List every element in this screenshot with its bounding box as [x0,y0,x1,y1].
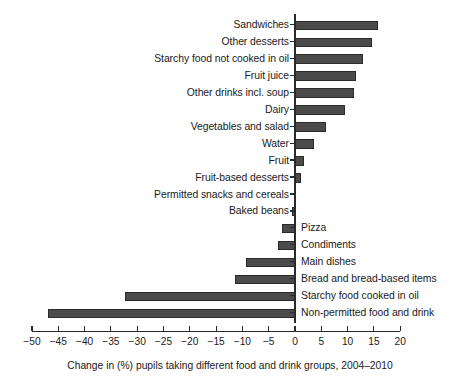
x-tick [163,326,164,331]
x-tick-label: −10 [234,336,251,347]
bar-row: Bread and bread-based items [0,270,460,289]
x-tick-label: 20 [395,336,406,347]
y-tick [290,278,294,279]
x-tick [58,326,59,331]
y-tick [290,193,294,194]
y-tick [290,143,294,144]
category-label: Main dishes [301,253,460,272]
category-label: Fruit [0,152,289,171]
y-tick [290,295,294,296]
x-tick [110,326,111,331]
x-tick [216,326,217,331]
bar-row: Baked beans [0,202,460,221]
bar [295,88,354,97]
y-tick [290,176,294,177]
bar [295,21,378,30]
x-tick-label: −20 [181,336,198,347]
bar-row: Pizza [0,219,460,238]
x-tick [137,326,138,331]
bar-row: Vegetables and salad [0,118,460,137]
category-label: Starchy food cooked in oil [301,287,460,306]
y-tick [290,58,294,59]
bar [295,71,356,80]
bar [295,54,363,63]
x-tick [373,326,374,331]
bar-row: Fruit [0,152,460,171]
x-tick [242,326,243,331]
x-tick-label: −15 [207,336,224,347]
bar [246,258,295,267]
bar-row: Other drinks incl. soup [0,84,460,103]
y-tick [290,109,294,110]
y-tick [290,312,294,313]
bar [235,275,295,284]
x-tick-label: −25 [155,336,172,347]
x-tick [400,326,401,331]
bar-row: Fruit-based desserts [0,169,460,188]
category-label: Permitted snacks and cereals [0,186,289,205]
y-axis-line [294,14,295,323]
y-tick [290,92,294,93]
category-label: Dairy [0,101,289,120]
bar-row: Dairy [0,101,460,120]
bar-row: Permitted snacks and cereals [0,186,460,205]
category-label: Non-permitted food and drink [301,304,460,323]
bar-row: Starchy food not cooked in oil [0,50,460,69]
x-tick [268,326,269,331]
bar-row: Sandwiches [0,16,460,35]
bar [282,224,295,233]
category-label: Baked beans [0,202,289,221]
bar [295,156,304,165]
category-label: Other drinks incl. soup [0,84,289,103]
x-tick-label: 10 [342,336,353,347]
bar-row: Main dishes [0,253,460,272]
x-tick-label: −50 [23,336,40,347]
category-label: Other desserts [0,33,289,52]
x-tick-label: −5 [263,336,275,347]
y-tick [290,75,294,76]
x-tick [347,326,348,331]
bar-row: Non-permitted food and drink [0,304,460,323]
category-label: Vegetables and salad [0,118,289,137]
category-label: Water [0,135,289,154]
y-tick [290,244,294,245]
category-label: Fruit juice [0,67,289,86]
x-tick-label: 15 [368,336,379,347]
bar [295,139,314,148]
bar [295,38,372,47]
category-label: Bread and bread-based items [301,270,460,289]
bar [278,241,295,250]
y-tick [290,261,294,262]
bar-chart: SandwichesOther dessertsStarchy food not… [0,0,460,387]
plot-area: SandwichesOther dessertsStarchy food not… [0,0,460,340]
y-tick [290,41,294,42]
bar-row: Starchy food cooked in oil [0,287,460,306]
bar [125,292,295,301]
bar [295,173,301,182]
x-tick-label: −40 [76,336,93,347]
y-tick [290,159,294,160]
x-tick-label: 5 [318,336,324,347]
y-tick [290,210,294,211]
x-tick [84,326,85,331]
x-tick [294,326,295,331]
x-tick-label: −30 [129,336,146,347]
category-label: Starchy food not cooked in oil [0,50,289,69]
x-tick-label: −45 [50,336,67,347]
y-tick [290,24,294,25]
bar-row: Condiments [0,236,460,255]
bar [295,122,326,131]
y-tick [290,126,294,127]
category-label: Fruit-based desserts [0,169,289,188]
bar [48,309,295,318]
chart-caption: Change in (%) pupils taking different fo… [0,360,460,371]
x-tick [31,326,32,331]
x-tick [321,326,322,331]
x-tick-label: 0 [292,336,298,347]
category-label: Condiments [301,236,460,255]
y-tick [290,227,294,228]
bar-row: Other desserts [0,33,460,52]
category-label: Sandwiches [0,16,289,35]
bar-row: Fruit juice [0,67,460,86]
bar-row: Water [0,135,460,154]
